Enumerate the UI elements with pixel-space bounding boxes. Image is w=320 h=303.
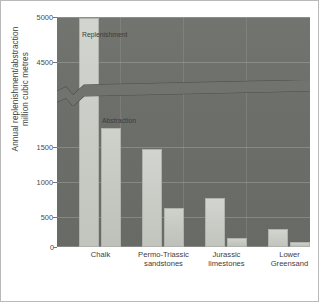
y-tick-label-500: 500 (13, 213, 53, 222)
bar-lower-greensand-abstraction (290, 242, 310, 247)
y-tick-label-4500: 4500 (13, 58, 53, 67)
x-label-lower-greensand-line-1: Lower (246, 250, 320, 259)
y-axis-title: Annual replenishment/abstraction million… (8, 0, 34, 194)
bar-permo-triassic-replenishment (142, 149, 162, 247)
bar-permo-triassic-abstraction (164, 208, 184, 247)
x-label-lower-greensand: Lower Greensand (246, 250, 320, 269)
x-axis-labels: Chalk Permo-Triassic sandstones Jurassic… (57, 250, 310, 284)
bar-lower-greensand-replenishment (268, 229, 288, 247)
bar-jurassic-replenishment (205, 198, 225, 247)
annotation-replenishment: Replenishment (82, 31, 127, 38)
gridline-vertical-3 (246, 17, 247, 247)
chart-figure: Annual replenishment/abstraction million… (0, 0, 320, 303)
bar-chalk-replenishment (79, 18, 99, 247)
bar-chalk-abstraction (101, 128, 121, 247)
annotation-abstraction: Abstraction (102, 117, 136, 124)
plot-area: Replenishment Abstraction (57, 17, 310, 247)
y-tick-label-1000: 1000 (13, 178, 53, 187)
y-axis-title-line-1: Annual replenishment/abstraction (11, 27, 21, 152)
bar-jurassic-abstraction (227, 238, 247, 247)
y-tick-label-1500: 1500 (13, 143, 53, 152)
x-label-lower-greensand-line-2: Greensand (246, 259, 320, 268)
y-tick-label-5000: 5000 (13, 13, 53, 22)
